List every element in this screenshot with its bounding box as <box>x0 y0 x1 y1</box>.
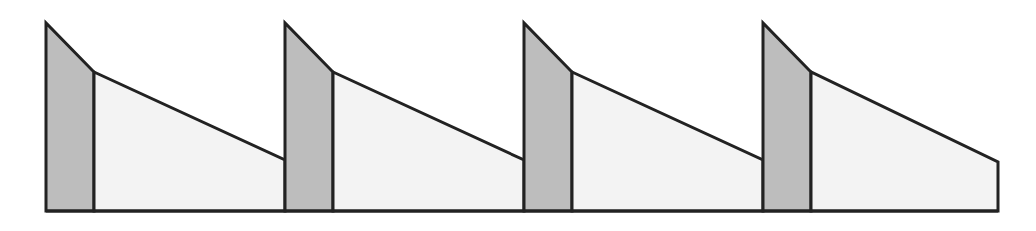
segment-3-shallow-region <box>572 72 763 211</box>
segment-2-shallow-region <box>333 72 524 211</box>
segment-4-shallow-region <box>811 72 998 211</box>
segment-4-steep-region <box>763 23 811 211</box>
segment-1-steep-region <box>46 23 94 211</box>
segment-1-shallow-region <box>94 72 285 211</box>
segment-2-steep-region <box>285 23 333 211</box>
segment-3-steep-region <box>524 23 572 211</box>
sawtooth-diagram <box>0 0 1036 231</box>
segments-group <box>46 23 998 211</box>
